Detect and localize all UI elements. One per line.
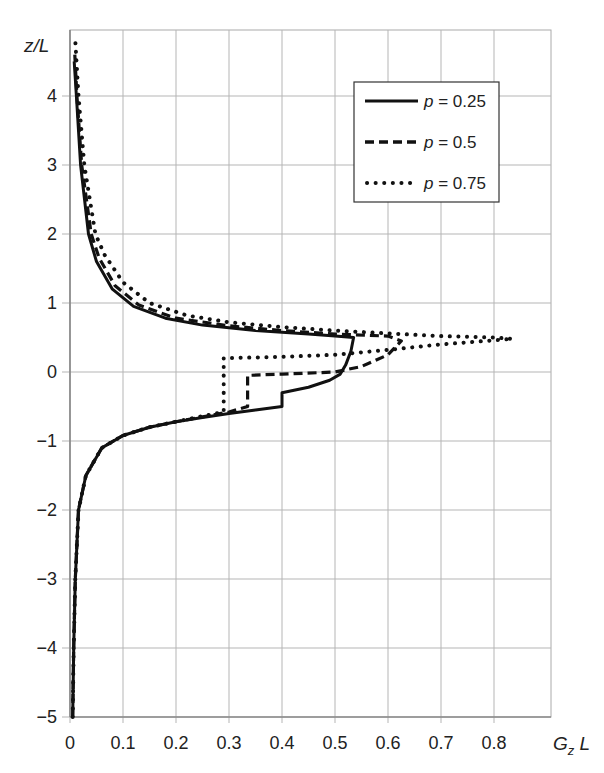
x-axis-label-tail: L [574,733,590,754]
svg-text:p = 0.5: p = 0.5 [423,133,476,152]
x-tick-label: 0.2 [163,733,188,753]
series-solid [73,62,354,718]
x-tick-label: 0.4 [269,733,294,753]
y-tick-label: 3 [47,155,57,175]
y-tick-label: −1 [36,431,57,451]
y-tick-label: −3 [36,569,57,589]
legend: p = 0.25 p = 0.5 p = 0.75 [354,82,499,202]
x-tick-label: 0.1 [110,733,135,753]
legend-var: p [423,174,433,193]
y-tick-label: −5 [36,707,57,727]
legend-label: = 0.25 [433,92,485,111]
chart: 00.10.20.30.40.50.60.70.8−5−4−3−2−101234… [0,0,604,773]
x-axis-label: Gz L [553,733,590,758]
legend-var: p [423,133,433,152]
y-tick-label: 4 [47,86,57,106]
x-tick-label: 0.3 [216,733,241,753]
y-tick-label: 1 [47,293,57,313]
y-tick-label: 0 [47,362,57,382]
y-tick-label: 2 [47,224,57,244]
x-tick-label: 0.5 [322,733,347,753]
legend-label: = 0.5 [433,133,476,152]
legend-label: = 0.75 [433,174,485,193]
series-dashed [73,55,402,717]
x-tick-label: 0.6 [375,733,400,753]
legend-var: p [423,92,433,111]
x-tick-label: 0 [65,733,75,753]
x-tick-label: 0.8 [481,733,506,753]
svg-text:p = 0.75: p = 0.75 [423,174,486,193]
y-tick-label: −4 [36,638,57,658]
y-tick-label: −2 [36,500,57,520]
x-tick-label: 0.7 [428,733,453,753]
x-axis-label-main: G [553,733,568,754]
y-axis-label: z/L [23,35,49,56]
svg-text:p = 0.25: p = 0.25 [423,92,486,111]
